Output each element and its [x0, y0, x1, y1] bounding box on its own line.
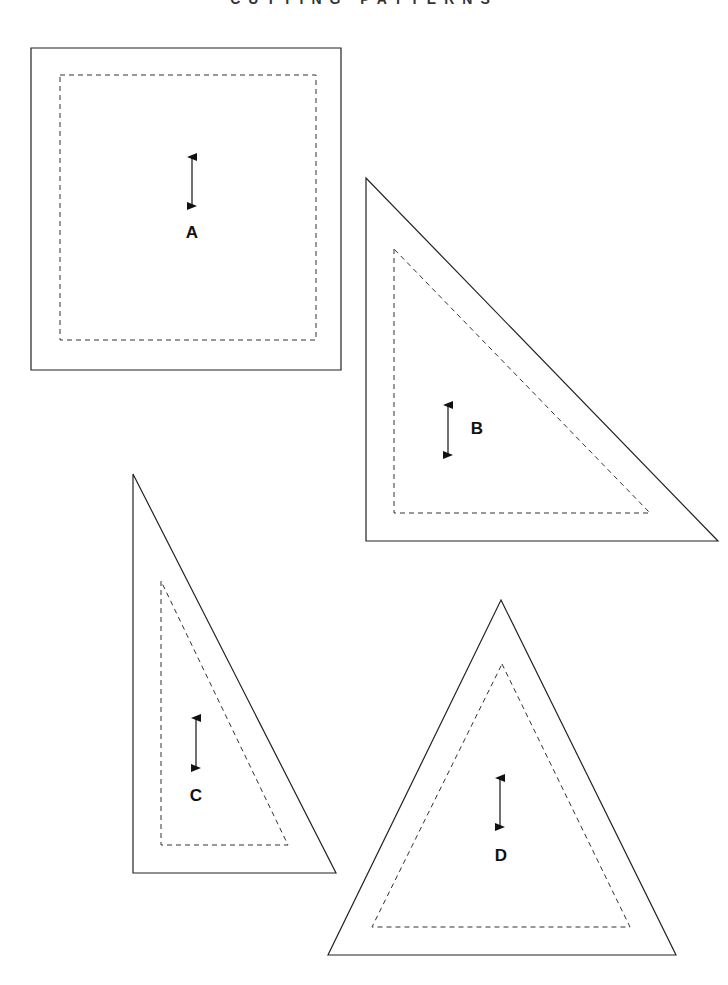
- template-b-cut-line: [366, 178, 718, 541]
- template-d-seam-line: [372, 664, 630, 927]
- template-c-seam-line: [161, 581, 288, 845]
- template-a-cut-line: [31, 48, 341, 370]
- template-a: A: [31, 48, 341, 370]
- template-a-seam-line: [60, 75, 316, 340]
- template-b: B: [366, 178, 718, 541]
- template-b-seam-line: [394, 249, 650, 513]
- template-a-label: A: [186, 223, 198, 242]
- template-d: D: [328, 600, 676, 955]
- template-c: C: [133, 474, 336, 873]
- template-c-cut-line: [133, 474, 336, 873]
- template-b-label: B: [471, 419, 483, 438]
- template-d-cut-line: [328, 600, 676, 955]
- template-d-label: D: [495, 846, 507, 865]
- template-c-label: C: [190, 786, 202, 805]
